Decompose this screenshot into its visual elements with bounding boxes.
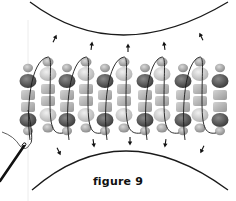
bead-dark <box>137 74 154 88</box>
bead-small <box>140 127 150 135</box>
bead-dark <box>212 113 229 127</box>
bead-square <box>213 90 227 100</box>
figure-caption: figure 9 <box>0 175 236 188</box>
bead-dark <box>20 74 37 88</box>
bead-light <box>192 108 209 122</box>
bead-small <box>178 64 188 72</box>
bead-square <box>60 90 74 100</box>
bead-light <box>78 108 95 122</box>
bead-square <box>176 90 190 100</box>
bead-dark <box>59 74 76 88</box>
bead-square <box>60 102 74 112</box>
bead-square <box>98 90 112 100</box>
figure-diagram <box>0 0 236 201</box>
bead-small <box>178 127 188 135</box>
bead-small <box>100 64 110 72</box>
bead-square <box>176 102 190 112</box>
needle-icon <box>0 132 30 181</box>
bead-small <box>140 64 150 72</box>
bead-dark <box>97 74 114 88</box>
arrow-down-icon <box>198 145 206 155</box>
bead-square <box>41 96 55 106</box>
bead-light <box>116 108 133 122</box>
top-curve <box>30 2 228 35</box>
bead-light <box>40 67 57 81</box>
bead-square <box>117 96 131 106</box>
bead-square <box>155 84 169 94</box>
bead-small <box>215 64 225 72</box>
bead-square <box>79 96 93 106</box>
arrow-down-icon <box>91 139 97 148</box>
bead-small <box>215 127 225 135</box>
arrow-up-icon <box>51 34 59 44</box>
bead-light <box>78 67 95 81</box>
arrow-down-icon <box>163 139 169 148</box>
bead-light <box>40 108 57 122</box>
arrow-down-icon <box>55 147 63 157</box>
arrow-up-icon <box>197 32 205 42</box>
bead-square <box>98 102 112 112</box>
arrow-up-icon <box>126 44 130 53</box>
bead-light <box>192 67 209 81</box>
arrow-up-icon <box>89 41 95 50</box>
bead-square <box>193 96 207 106</box>
bead-small <box>100 127 110 135</box>
bead-light <box>116 67 133 81</box>
bead-small <box>62 64 72 72</box>
bead-dark <box>175 74 192 88</box>
bead-square <box>21 90 35 100</box>
bead-dark <box>212 74 229 88</box>
bead-square <box>41 84 55 94</box>
bead-light <box>154 108 171 122</box>
bead-square <box>138 90 152 100</box>
bead-square <box>138 102 152 112</box>
bead-small <box>62 127 72 135</box>
bead-square <box>193 84 207 94</box>
bead-square <box>79 84 93 94</box>
bead-square <box>155 96 169 106</box>
arrow-down-icon <box>128 137 132 146</box>
arrow-up-icon <box>162 41 168 50</box>
bead-square <box>213 102 227 112</box>
bead-small <box>23 64 33 72</box>
bead-square <box>117 84 131 94</box>
bead-light <box>154 67 171 81</box>
